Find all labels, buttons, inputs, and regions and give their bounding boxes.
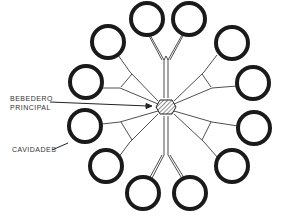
sprue-label-line2: PRINCIPAL — [10, 103, 53, 112]
cavity-ring — [238, 112, 270, 144]
cavity-ring — [70, 66, 102, 98]
sprue-label-line1: BEBEDERO — [10, 94, 53, 103]
cavity-ring — [131, 3, 163, 35]
cavities-label: CAVIDADES — [12, 145, 56, 154]
cavity-ring — [90, 150, 122, 182]
cavity-ring — [69, 110, 101, 142]
cavity-ring — [173, 3, 205, 35]
cavity-ring — [216, 150, 248, 182]
cavity-ring — [237, 67, 269, 99]
sprue-label: BEBEDERO PRINCIPAL — [10, 94, 53, 112]
cavity-ring — [174, 177, 206, 209]
cavity-ring — [127, 177, 159, 209]
cavity-ring — [216, 27, 248, 59]
main-sprue-hub — [156, 100, 176, 114]
cavity-ring — [92, 26, 124, 58]
